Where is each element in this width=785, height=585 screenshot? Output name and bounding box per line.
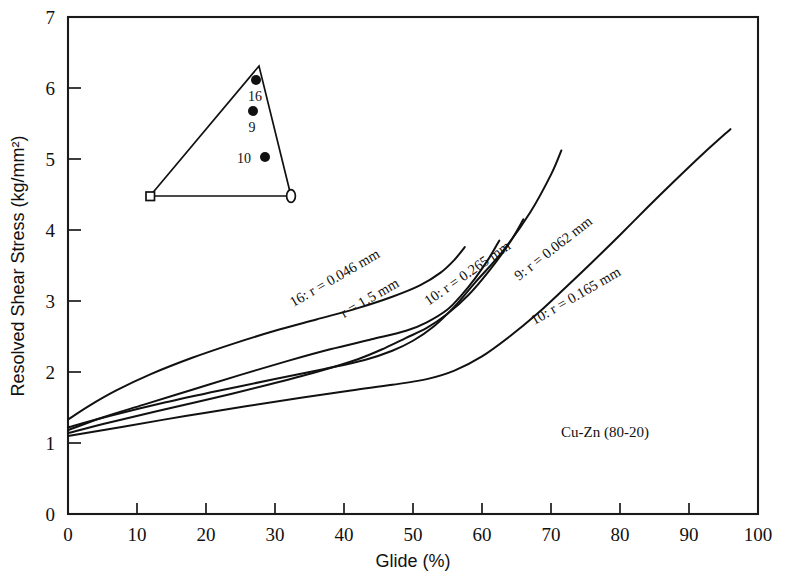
- x-tick-label: 0: [63, 524, 73, 545]
- y-axis-title: Resolved Shear Stress (kg/mm²): [8, 135, 28, 396]
- x-tick-label: 100: [744, 524, 773, 545]
- y-tick-label: 0: [46, 504, 56, 525]
- chart-canvas: 0102030405060708090100 01234567 Glide (%…: [0, 0, 785, 585]
- x-tick-label: 30: [266, 524, 285, 545]
- triangle-outline: [150, 66, 291, 196]
- figure-root: 0102030405060708090100 01234567 Glide (%…: [0, 0, 785, 585]
- corner-marker-right: [287, 190, 296, 203]
- x-tick-label: 50: [404, 524, 423, 545]
- corner-marker-left: [146, 192, 155, 201]
- y-axis-tick-labels: 01234567: [46, 7, 56, 525]
- x-axis-tick-labels: 0102030405060708090100: [63, 524, 772, 545]
- x-axis-ticks: [137, 503, 689, 514]
- curve-series-1: [68, 241, 499, 431]
- curve-series-0: [68, 247, 465, 420]
- y-tick-label: 7: [46, 7, 56, 28]
- x-tick-label: 90: [680, 524, 699, 545]
- y-axis-ticks: [68, 88, 81, 443]
- plot-frame: [68, 17, 758, 514]
- x-tick-label: 80: [611, 524, 630, 545]
- inset-point-label-16: 16: [248, 89, 262, 104]
- curve-series-2: [68, 219, 523, 433]
- stereographic-triangle-inset: 16 9 10: [146, 66, 295, 202]
- curve-label-10-0265: 10: r = 0.265 mm: [421, 237, 514, 309]
- x-tick-label: 40: [335, 524, 354, 545]
- y-tick-label: 1: [46, 433, 56, 454]
- inset-point-label-9: 9: [249, 120, 256, 135]
- y-tick-label: 2: [46, 362, 56, 383]
- y-tick-label: 4: [46, 220, 56, 241]
- y-tick-label: 3: [46, 291, 56, 312]
- x-tick-label: 10: [128, 524, 147, 545]
- x-tick-label: 20: [197, 524, 216, 545]
- x-axis-title: Glide (%): [375, 551, 450, 571]
- x-tick-label: 60: [473, 524, 492, 545]
- inset-point-9: [248, 106, 258, 116]
- inset-point-10: [260, 152, 270, 162]
- y-tick-label: 6: [46, 78, 56, 99]
- y-tick-label: 5: [46, 149, 56, 170]
- inset-point-16: [251, 75, 261, 85]
- inset-point-label-10: 10: [237, 151, 251, 166]
- curve-label-10-0165: 10: r = 0.165 mm: [528, 263, 624, 328]
- material-annotation: Cu-Zn (80-20): [561, 424, 649, 441]
- x-tick-label: 70: [542, 524, 561, 545]
